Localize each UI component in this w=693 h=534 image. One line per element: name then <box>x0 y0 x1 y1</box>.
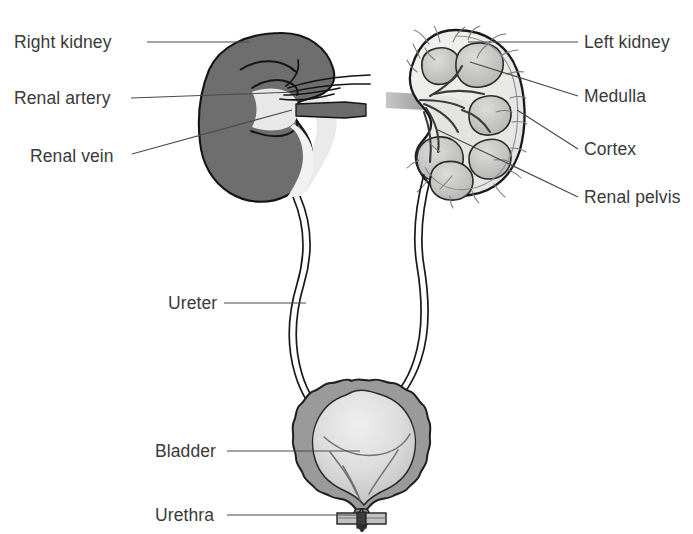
label-right-kidney: Right kidney <box>14 32 112 52</box>
left-kidney-group <box>386 26 527 208</box>
ureter-left-inner-wall <box>385 176 431 415</box>
leader-cortex <box>517 110 578 149</box>
label-renal-artery: Renal artery <box>14 88 111 108</box>
label-medulla: Medulla <box>584 86 646 106</box>
ureter-left-outer-wall <box>378 174 424 412</box>
label-urethra: Urethra <box>155 505 214 525</box>
label-left-kidney: Left kidney <box>584 32 670 52</box>
label-renal-pelvis: Renal pelvis <box>584 187 681 207</box>
label-ureter: Ureter <box>168 293 217 313</box>
pyramid <box>469 139 511 179</box>
right-kidney-group <box>199 33 370 202</box>
diagram-canvas: Right kidney Renal artery Renal vein Lef… <box>0 0 693 534</box>
renal-vein-right <box>296 102 366 118</box>
label-bladder: Bladder <box>155 441 216 461</box>
label-cortex: Cortex <box>584 139 636 159</box>
label-renal-vein: Renal vein <box>30 146 114 166</box>
urinary-system-diagram: Right kidney Renal artery Renal vein Lef… <box>0 0 693 534</box>
